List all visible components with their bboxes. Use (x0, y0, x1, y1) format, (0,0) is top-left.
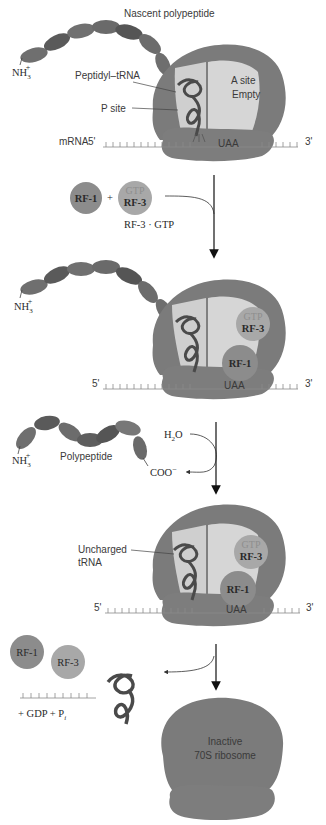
svg-text:5': 5' (92, 378, 100, 389)
released-rf1: RF-1 (10, 635, 44, 669)
released-mrna (20, 693, 96, 698)
svg-text:3': 3' (306, 602, 314, 613)
c-terminus-label: COO− (150, 465, 177, 478)
svg-text:3': 3' (305, 136, 313, 147)
svg-text:RF-1: RF-1 (16, 647, 38, 658)
step2-arrow (188, 422, 217, 490)
svg-text:5': 5' (88, 136, 96, 147)
svg-text:RF-1: RF-1 (75, 193, 98, 204)
uncharged-trna-label-2: tRNA (78, 557, 102, 568)
rf1-factor: RF-1 (70, 182, 102, 214)
stage1-ribosome: Nascent polypeptide NH3+ Peptidyl–tRNA P… (12, 8, 313, 161)
a-site-label: A site (231, 75, 256, 86)
svg-text:UAA: UAA (224, 380, 245, 391)
svg-text:5': 5' (94, 602, 102, 613)
nascent-polypeptide-label: Nascent polypeptide (124, 8, 215, 19)
plus-sign: + (107, 192, 113, 203)
released-trna (108, 675, 133, 724)
step1-arrow (165, 175, 214, 254)
svg-text:RF-3: RF-3 (242, 323, 265, 334)
n-terminus-label: NH3+ (12, 63, 31, 81)
svg-text:UAA: UAA (218, 138, 239, 149)
step3-arrow (166, 644, 216, 686)
svg-text:GTP: GTP (242, 539, 261, 550)
products-label: + GDP + Pi (18, 708, 66, 722)
svg-text:RF-1: RF-1 (229, 358, 252, 369)
svg-text:UAA: UAA (226, 604, 247, 615)
released-rf3: RF-3 (51, 645, 85, 679)
a-site-empty-label: Empty (232, 89, 260, 100)
rf3-gtp-complex-label: RF-3 · GTP (124, 219, 174, 230)
rf1-in-a-site: RF-1 (222, 345, 258, 381)
svg-text:3': 3' (305, 378, 313, 389)
svg-text:GTP: GTP (244, 311, 263, 322)
svg-text:RF-3: RF-3 (57, 657, 79, 668)
rf3-in-a-site-3: GTP RF-3 (234, 535, 268, 569)
svg-text:RF-3: RF-3 (124, 197, 147, 208)
nascent-polypeptide-chain-2 (19, 260, 176, 324)
stage3-ribosome: Uncharged tRNA GTP RF-3 RF-1 5' UAA 3' (78, 504, 314, 626)
nascent-polypeptide-chain (19, 20, 174, 78)
water-label: H2O (164, 429, 183, 443)
inactive-label: Inactive (208, 736, 243, 747)
uncharged-trna-label: Uncharged (78, 544, 127, 555)
n-terminus-label-3: NH3+ (12, 451, 31, 469)
rf1-in-a-site-3: RF-1 (220, 571, 256, 607)
svg-text:RF-3: RF-3 (240, 551, 263, 562)
svg-text:RF-1: RF-1 (227, 584, 250, 595)
polypeptide-label: Polypeptide (60, 451, 113, 462)
inactive-ribosome: Inactive 70S ribosome (161, 698, 283, 820)
peptidyl-trna-label: Peptidyl–tRNA (75, 70, 140, 81)
rf3-in-a-site: GTP RF-3 (236, 307, 270, 341)
svg-text:GTP: GTP (126, 185, 145, 196)
p-site-label: P site (101, 103, 126, 114)
rf3-gtp-factor: GTP RF-3 (118, 181, 152, 215)
stage2-ribosome: NH3+ GTP RF-3 RF-1 5' UAA 3' (14, 260, 313, 399)
svg-text:mRNA: mRNA (59, 136, 89, 147)
70s-ribosome-label: 70S ribosome (194, 750, 256, 761)
n-terminus-label-2: NH3+ (14, 297, 33, 315)
termination-diagram: Nascent polypeptide NH3+ Peptidyl–tRNA P… (0, 0, 326, 825)
